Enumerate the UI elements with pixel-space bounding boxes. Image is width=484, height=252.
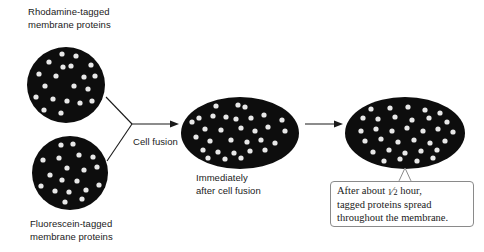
- protein-dot: [233, 116, 238, 121]
- cell-fusion-label: Cell fusion: [133, 136, 178, 149]
- protein-dot: [258, 137, 263, 142]
- protein-dot: [247, 148, 252, 153]
- protein-dot: [430, 155, 435, 160]
- fluorescein-label: Fluorescein-tagged membrane proteins: [30, 218, 113, 243]
- protein-dot: [58, 110, 63, 115]
- protein-dot: [73, 53, 78, 58]
- protein-dot: [427, 140, 432, 145]
- protein-dot: [402, 150, 407, 155]
- after-half-hour-cell: [345, 97, 465, 169]
- protein-dot: [442, 138, 447, 143]
- protein-dot: [210, 113, 215, 118]
- protein-dot: [378, 136, 383, 141]
- protein-dot: [79, 196, 84, 201]
- caption-line-3: throughout the membrane.: [337, 212, 448, 223]
- protein-dot: [40, 157, 45, 162]
- protein-dot: [426, 115, 431, 120]
- protein-dot: [77, 100, 82, 105]
- protein-dot: [62, 199, 67, 204]
- caption-line1-prefix: After about: [337, 185, 388, 196]
- protein-dot: [404, 125, 409, 130]
- protein-dot: [223, 114, 228, 119]
- protein-dot: [282, 128, 287, 133]
- protein-dot: [85, 86, 90, 91]
- protein-dot: [395, 139, 400, 144]
- protein-dot: [88, 62, 93, 67]
- protein-dot: [47, 172, 52, 177]
- protein-dot: [422, 107, 427, 112]
- protein-dot: [362, 138, 367, 143]
- rhodamine-label: Rhodamine-tagged membrane proteins: [28, 6, 111, 31]
- protein-dot: [71, 83, 76, 88]
- protein-dot: [76, 152, 81, 157]
- protein-dot: [411, 137, 416, 142]
- protein-dot: [231, 150, 236, 155]
- protein-dot: [218, 127, 223, 132]
- immediately-after-fusion-label: Immediately after cell fusion: [196, 172, 261, 197]
- protein-dot: [272, 140, 277, 145]
- protein-dot: [205, 155, 210, 160]
- protein-dot: [38, 183, 43, 188]
- protein-dot: [59, 177, 64, 182]
- protein-dot: [83, 187, 88, 192]
- protein-dot: [56, 155, 61, 160]
- protein-dot: [358, 128, 363, 133]
- cell-fusion-diagram: Rhodamine-tagged membrane proteins Fluor…: [0, 0, 484, 252]
- protein-dot: [392, 114, 397, 119]
- after-half-hour-cell-membrane: [345, 97, 465, 169]
- rhodamine-cell-membrane: [27, 47, 105, 123]
- protein-dot: [381, 158, 386, 163]
- protein-dot: [50, 96, 55, 101]
- fluorescein-cell-membrane: [32, 136, 108, 210]
- fusion-merge-arrow-head: [170, 121, 179, 128]
- protein-dot: [235, 102, 240, 107]
- protein-dot: [389, 128, 394, 133]
- protein-dot: [360, 115, 365, 120]
- protein-dot: [420, 128, 425, 133]
- protein-dot: [52, 188, 57, 193]
- protein-dot: [207, 138, 212, 143]
- protein-dot: [414, 158, 419, 163]
- half-fraction: 1⁄2: [388, 185, 398, 196]
- protein-dot: [450, 129, 455, 134]
- protein-dot: [262, 147, 267, 152]
- protein-dot: [189, 119, 194, 124]
- protein-dot: [196, 115, 201, 120]
- protein-dot: [36, 71, 41, 76]
- rhodamine-cell: [27, 47, 105, 123]
- caption-pointer: [399, 168, 411, 181]
- protein-dot: [58, 142, 63, 147]
- protein-dot: [81, 167, 86, 172]
- protein-dot: [244, 139, 249, 144]
- protein-dot: [222, 156, 227, 161]
- protein-dot: [64, 98, 69, 103]
- protein-dot: [397, 156, 402, 161]
- protein-dot: [434, 147, 439, 152]
- protein-dot: [261, 112, 266, 117]
- immediately-after-fusion-cell: [181, 97, 299, 169]
- fusion-input-line-top: [106, 97, 132, 124]
- protein-dot: [215, 149, 220, 154]
- protein-dot: [242, 104, 247, 109]
- protein-dot: [81, 74, 86, 79]
- protein-dot: [248, 115, 253, 120]
- protein-dot: [373, 126, 378, 131]
- protein-dot: [437, 110, 442, 115]
- protein-dot: [252, 128, 257, 133]
- protein-dot: [405, 104, 410, 109]
- protein-dot: [409, 117, 414, 122]
- protein-dot: [46, 59, 51, 64]
- protein-dot: [228, 137, 233, 142]
- protein-dot: [64, 165, 69, 170]
- protein-dot: [368, 106, 373, 111]
- protein-dot: [202, 126, 207, 131]
- protein-dot: [238, 155, 243, 160]
- protein-dot: [59, 51, 64, 56]
- protein-dot: [279, 117, 284, 122]
- protein-dot: [96, 182, 101, 187]
- protein-dot: [94, 164, 99, 169]
- protein-dot: [66, 189, 71, 194]
- protein-dot: [435, 126, 440, 131]
- protein-dot: [387, 105, 392, 110]
- protein-dot: [418, 148, 423, 153]
